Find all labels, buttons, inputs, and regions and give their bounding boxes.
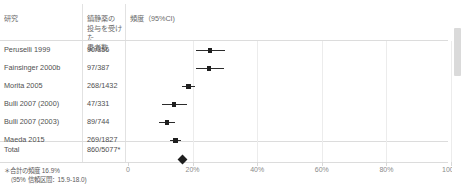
column-header-study: 研究 xyxy=(4,14,80,24)
gridline xyxy=(193,41,194,162)
study-name: Morita 2005 xyxy=(4,77,43,95)
study-name: Bulli 2007 (2000) xyxy=(4,95,59,113)
footnote-text: ＊合計の頻度 16.9% （95% 信頼区間：15.9-18.0) xyxy=(4,167,122,184)
study-name: Bulli 2007 (2003) xyxy=(4,113,59,131)
x-axis: 020%40%60%80%100% xyxy=(125,162,448,178)
effect-estimate-marker xyxy=(186,84,191,89)
axis-tick-label: 60% xyxy=(302,166,342,173)
patient-count: 89/744 xyxy=(87,113,109,131)
patient-count: 90/356 xyxy=(87,41,109,59)
forest-plot-panel: 研究 鎮静薬の 投与を受けた 患者数 頻度（95%CI) Peruselli 1… xyxy=(0,0,463,194)
effect-estimate-marker xyxy=(165,120,169,124)
gridline xyxy=(257,41,258,162)
total-count: 860/5077* xyxy=(87,141,120,159)
scrollbar-track[interactable] xyxy=(452,0,463,194)
total-label: Total xyxy=(4,141,19,159)
axis-tick-label: 80% xyxy=(366,166,406,173)
axis-tick-label: 20% xyxy=(173,166,213,173)
column-header-frequency: 頻度（95%CI) xyxy=(130,14,200,24)
patient-count: 47/331 xyxy=(87,95,109,113)
axis-tick-label: 40% xyxy=(237,166,277,173)
study-name: Fainsinger 2000b xyxy=(4,59,60,77)
patient-count: 268/1432 xyxy=(87,77,117,95)
gridline xyxy=(386,41,387,162)
study-name: Peruselli 1999 xyxy=(4,41,50,59)
gridline xyxy=(322,41,323,162)
effect-estimate-marker xyxy=(173,138,178,143)
effect-estimate-marker xyxy=(207,66,211,70)
forest-plot-area xyxy=(125,41,448,162)
patient-count: 97/387 xyxy=(87,59,109,77)
scrollbar-thumb[interactable] xyxy=(454,28,461,76)
effect-estimate-marker xyxy=(208,48,212,52)
effect-estimate-marker xyxy=(172,102,176,106)
